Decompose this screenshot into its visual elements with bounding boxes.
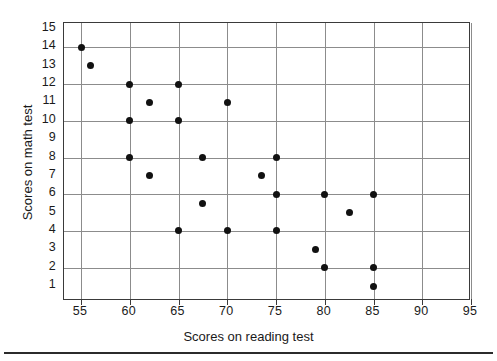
- data-point: [370, 191, 377, 198]
- data-point: [321, 264, 328, 271]
- y-axis-tick-label: 15: [22, 20, 56, 34]
- x-axis-tick-label: 75: [255, 304, 295, 318]
- gridline-vertical: [276, 23, 277, 299]
- x-axis-tick-label: 80: [304, 304, 344, 318]
- y-axis-tick-label: 5: [22, 204, 56, 218]
- y-axis-tick-label: 7: [22, 167, 56, 181]
- data-point: [87, 62, 94, 69]
- y-axis-tick-label: 9: [22, 130, 56, 144]
- gridline-horizontal: [64, 268, 469, 269]
- data-point: [78, 44, 85, 51]
- data-point: [273, 154, 280, 161]
- x-axis-tick-label: 60: [109, 304, 149, 318]
- data-point: [126, 81, 133, 88]
- data-point: [199, 200, 206, 207]
- gridline-vertical: [179, 23, 180, 299]
- data-point: [199, 154, 206, 161]
- data-point: [370, 264, 377, 271]
- plot-area: [63, 22, 470, 300]
- y-axis-tick-label: 2: [22, 259, 56, 273]
- scatter-plot-figure: Scores on reading test Scores on math te…: [0, 0, 497, 361]
- gridline-horizontal: [64, 121, 469, 122]
- data-point: [346, 209, 353, 216]
- data-point: [273, 191, 280, 198]
- data-point: [370, 283, 377, 290]
- gridline-horizontal: [64, 84, 469, 85]
- gridline-vertical: [422, 23, 423, 299]
- data-point: [312, 246, 319, 253]
- gridline-vertical: [325, 23, 326, 299]
- data-point: [126, 117, 133, 124]
- y-axis-tick-label: 8: [22, 149, 56, 163]
- x-axis-tick-label: 95: [450, 304, 490, 318]
- y-axis-tick-label: 3: [22, 240, 56, 254]
- gridline-horizontal: [64, 194, 469, 195]
- y-axis-tick-label: 10: [22, 112, 56, 126]
- gridline-horizontal: [64, 158, 469, 159]
- x-axis-tick-label: 55: [60, 304, 100, 318]
- data-point: [175, 81, 182, 88]
- x-axis-tick-label: 65: [158, 304, 198, 318]
- x-axis-tick-label: 90: [401, 304, 441, 318]
- y-axis-tick-label: 11: [22, 93, 56, 107]
- data-point: [258, 172, 265, 179]
- y-axis-tick-label: 1: [22, 277, 56, 291]
- x-axis-tick-label: 85: [353, 304, 393, 318]
- data-point: [224, 99, 231, 106]
- data-point: [175, 117, 182, 124]
- gridline-vertical: [374, 23, 375, 299]
- gridline-vertical: [227, 23, 228, 299]
- y-axis-tick-label: 6: [22, 185, 56, 199]
- gridline-vertical: [471, 23, 472, 299]
- y-axis-tick-label: 13: [22, 57, 56, 71]
- gridline-horizontal: [64, 231, 469, 232]
- gridline-horizontal: [64, 47, 469, 48]
- y-axis-tick-label: 14: [22, 38, 56, 52]
- gridline-vertical: [130, 23, 131, 299]
- data-point: [146, 172, 153, 179]
- data-point: [321, 191, 328, 198]
- data-point: [126, 154, 133, 161]
- gridline-vertical: [81, 23, 82, 299]
- x-axis-tick-label: 70: [206, 304, 246, 318]
- y-axis-tick-label: 12: [22, 75, 56, 89]
- y-axis-tick-label: 4: [22, 222, 56, 236]
- x-axis-title: Scores on reading test: [0, 329, 497, 344]
- page-divider-rule: [4, 352, 493, 354]
- data-point: [146, 99, 153, 106]
- data-point: [175, 227, 182, 234]
- data-point: [273, 227, 280, 234]
- data-point: [224, 227, 231, 234]
